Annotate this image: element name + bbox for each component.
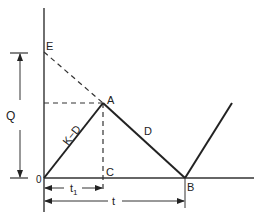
label-t1: t1 [70, 182, 78, 197]
label-E: E [46, 40, 53, 52]
inventory-diagram: E A C B 0 Q D K−D t1 t [0, 0, 261, 218]
label-O: 0 [36, 174, 42, 185]
dashed-line-E-to-A [44, 52, 103, 103]
label-B: B [187, 181, 194, 193]
label-D: D [144, 125, 152, 137]
label-C: C [106, 166, 114, 178]
label-K-minus-D: K−D [60, 123, 83, 148]
rising-line-B-next-cycle [185, 103, 232, 178]
label-A: A [107, 94, 115, 106]
label-Q: Q [6, 109, 15, 123]
falling-line-A-to-B [103, 103, 185, 178]
label-t: t [112, 195, 115, 207]
